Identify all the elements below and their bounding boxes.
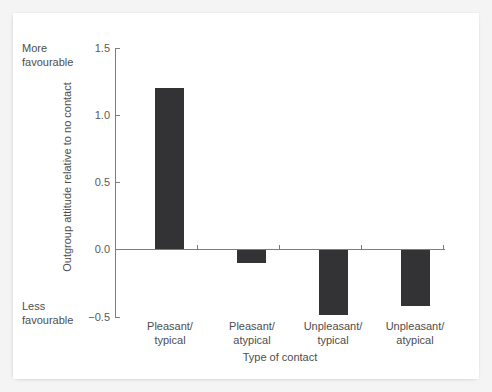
bar-pleasant-typical: [155, 88, 184, 249]
x-tick-mark-4: [443, 245, 444, 249]
y-axis-title: Outgroup attitude relative to no contact: [61, 77, 73, 277]
y-tick-mark--0.5: [116, 317, 120, 318]
x-category-label-0: Pleasant/ typical: [128, 320, 212, 347]
x-tick-mark-3: [361, 245, 362, 249]
y-tick-label-0.5: 0.5: [74, 177, 110, 188]
y-axis-spine: [115, 48, 116, 318]
bar-unpleasant-atypical: [401, 250, 430, 306]
x-category-label-3: Unpleasant/ atypical: [372, 320, 458, 347]
bar-pleasant-atypical: [237, 250, 266, 263]
y-tick-label--0.5: −0.5: [74, 312, 110, 323]
y-tick-label-1.0: 1.0: [74, 110, 110, 121]
bar-unpleasant-typical: [319, 250, 348, 316]
figure-root: More favourable Less favourable 1.5 1.0 …: [0, 0, 492, 392]
y-tick-mark-1.0: [116, 115, 120, 116]
x-category-label-2: Unpleasant/ typical: [290, 320, 376, 347]
x-axis-title: Type of contact: [180, 351, 380, 363]
y-tick-mark-1.5: [116, 48, 120, 49]
plot-area: More favourable Less favourable 1.5 1.0 …: [0, 0, 492, 392]
x-category-label-1: Pleasant/ atypical: [210, 320, 294, 347]
y-tick-mark-0.5: [116, 182, 120, 183]
x-tick-mark-2: [279, 245, 280, 249]
y-tick-label-1.5: 1.5: [74, 43, 110, 54]
x-tick-mark-1: [197, 245, 198, 249]
y-tick-label-0.0: 0.0: [74, 244, 110, 255]
